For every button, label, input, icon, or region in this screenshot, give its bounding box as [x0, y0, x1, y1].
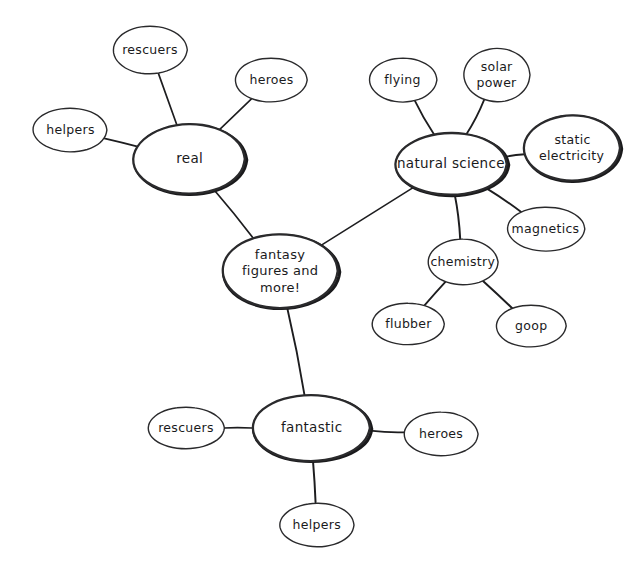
node-fantastic_heroes-ellipse[interactable] [404, 412, 478, 456]
edge-center-to-fantastic [287, 308, 304, 396]
node-real_heroes[interactable]: heroes [235, 58, 307, 102]
node-solar_power-ellipse[interactable] [464, 48, 530, 101]
edge-center-to-real [214, 190, 253, 238]
edge-real-to-real_helpers [104, 138, 137, 146]
node-flying[interactable]: flying [370, 58, 437, 102]
edge-natural_science-to-chemistry [455, 195, 460, 239]
mindmap-diagram: fantasyfigures andmore!realrescuersheroe… [0, 0, 642, 584]
node-flubber-ellipse[interactable] [372, 303, 444, 344]
node-fantastic_helpers-ellipse[interactable] [280, 503, 354, 546]
node-fantastic-ellipse[interactable] [253, 395, 370, 461]
node-real-ellipse[interactable] [133, 124, 245, 194]
edge-chemistry-to-flubber [425, 282, 446, 305]
node-real[interactable]: real [133, 124, 246, 194]
node-fantastic[interactable]: fantastic [253, 395, 372, 461]
node-flubber[interactable]: flubber [372, 303, 444, 344]
node-real_rescuers[interactable]: rescuers [113, 26, 187, 74]
node-center-ellipse[interactable] [223, 234, 338, 308]
node-real_heroes-ellipse[interactable] [235, 58, 307, 102]
node-layer: fantasyfigures andmore!realrescuersheroe… [33, 26, 622, 547]
node-natural_science-ellipse[interactable] [395, 133, 506, 195]
node-center[interactable]: fantasyfigures andmore! [223, 234, 340, 308]
edge-real-to-real_heroes [220, 99, 252, 130]
node-real_helpers[interactable]: helpers [33, 108, 107, 152]
edge-fantastic-to-fantastic_heroes [370, 431, 404, 433]
node-static_electricity-ellipse[interactable] [524, 115, 620, 180]
node-chemistry-ellipse[interactable] [428, 239, 498, 285]
edge-natural_science-to-solar_power [466, 100, 484, 134]
node-goop-ellipse[interactable] [496, 305, 566, 347]
node-natural_science[interactable]: natural science [395, 133, 508, 196]
node-fantastic_heroes[interactable]: heroes [404, 412, 478, 456]
edge-chemistry-to-goop [483, 281, 512, 308]
node-static_electricity[interactable]: staticelectricity [524, 115, 622, 181]
node-fantastic_rescuers-ellipse[interactable] [148, 407, 224, 449]
edge-natural_science-to-flying [415, 101, 434, 135]
mindmap-canvas: fantasyfigures andmore!realrescuersheroe… [0, 0, 642, 584]
node-goop[interactable]: goop [496, 305, 566, 347]
node-real_helpers-ellipse[interactable] [33, 108, 107, 152]
node-solar_power[interactable]: solarpower [464, 48, 530, 101]
edge-natural_science-to-static_electricity [506, 154, 525, 157]
edge-real-to-real_rescuers [158, 73, 176, 124]
node-flying-ellipse[interactable] [370, 58, 437, 102]
edge-center-to-natural_science [321, 187, 414, 245]
edge-natural_science-to-magnetics [486, 188, 521, 212]
node-real_rescuers-ellipse[interactable] [113, 26, 187, 74]
node-magnetics[interactable]: magnetics [508, 207, 585, 251]
edge-fantastic-to-fantastic_helpers [313, 461, 316, 503]
node-fantastic_rescuers[interactable]: rescuers [148, 407, 224, 449]
node-magnetics-ellipse[interactable] [508, 207, 585, 251]
node-fantastic_helpers[interactable]: helpers [280, 503, 354, 546]
node-chemistry[interactable]: chemistry [428, 239, 498, 285]
